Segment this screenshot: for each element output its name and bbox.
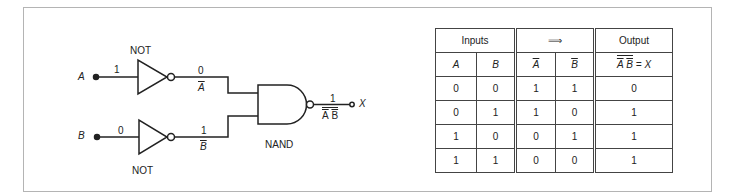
not-a-output-value: 0: [198, 66, 204, 76]
cell: 0: [516, 149, 556, 173]
input-a-value: 1: [114, 65, 120, 75]
output-header: Output: [595, 29, 673, 53]
table-row: 1 1 0 0 1: [436, 149, 673, 173]
col-b-header: B: [477, 53, 516, 77]
nand-gate-label: NAND: [265, 140, 293, 150]
table-row: 0 0 1 1 0: [436, 77, 673, 101]
cell: 0: [516, 125, 556, 149]
cell: 1: [477, 101, 516, 125]
cell: 1: [556, 77, 595, 101]
cell: 0: [556, 101, 595, 125]
cell: 1: [595, 125, 673, 149]
input-b-label: B: [78, 131, 85, 141]
col-not-a-header: A: [516, 53, 556, 77]
col-a-header: A: [436, 53, 477, 77]
column-header-row: A B A B A B = X: [436, 53, 673, 77]
cell: 1: [516, 77, 556, 101]
cell: 0: [595, 77, 673, 101]
table-row: 1 0 0 1 1: [436, 125, 673, 149]
cell: 1: [436, 149, 477, 173]
not-b-output-wire: [175, 116, 258, 137]
implies-header: ⟹: [516, 29, 595, 53]
input-b-terminal-icon: [95, 135, 100, 140]
cell: 0: [436, 77, 477, 101]
group-header-row: Inputs ⟹ Output: [436, 29, 673, 53]
inputs-header: Inputs: [436, 29, 516, 53]
nand-gate-icon: [258, 85, 314, 124]
cell: 0: [556, 149, 595, 173]
not-a-output-label: A: [198, 83, 205, 93]
not-gate-b-icon: [139, 120, 175, 154]
cell: 1: [477, 149, 516, 173]
cell: 0: [477, 125, 516, 149]
col-output-header: A B = X: [595, 53, 673, 77]
cell: 1: [516, 101, 556, 125]
table-row: 0 1 1 0 1: [436, 101, 673, 125]
not-gate-a-icon: [138, 60, 175, 94]
not-a-output-wire: [175, 77, 258, 93]
col-not-b-header: B: [556, 53, 595, 77]
nand-output-value: 1: [330, 94, 336, 104]
not-b-output-label: B: [200, 142, 207, 152]
input-a-terminal-icon: [94, 75, 99, 80]
truth-table: Inputs ⟹ Output A B A B A B = X 0 0 1 1 …: [435, 28, 673, 173]
not-b-output-value: 1: [201, 126, 207, 136]
output-x-label: X: [359, 99, 366, 109]
cell: 0: [436, 101, 477, 125]
cell: 0: [477, 77, 516, 101]
output-terminal-icon: [350, 102, 354, 106]
not-gate-a-label: NOT: [130, 46, 151, 56]
not-gate-b-label: NOT: [132, 166, 153, 176]
cell: 1: [556, 125, 595, 149]
cell: 1: [595, 101, 673, 125]
input-b-value: 0: [118, 126, 124, 136]
input-a-label: A: [78, 72, 85, 82]
cell: 1: [436, 125, 477, 149]
cell: 1: [595, 149, 673, 173]
nand-output-label: A B: [322, 111, 338, 121]
